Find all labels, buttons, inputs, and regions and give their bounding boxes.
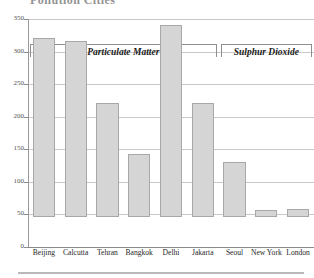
y-tick-label-250: 250 (0, 80, 24, 87)
plot-area: 050100150200250300350 Particulate Matter… (0, 0, 314, 260)
y-tick-label-200: 200 (0, 113, 24, 120)
x-tick-label-london: London (279, 249, 314, 257)
bar-bangkok[interactable] (128, 154, 150, 217)
y-tick-label-150: 150 (0, 145, 24, 152)
bar-seoul[interactable] (223, 162, 245, 217)
pollution-bar-chart: Pollution Cities 050100150200250300350 P… (0, 0, 314, 278)
bar-slot (65, 0, 87, 217)
bar-slot (160, 0, 182, 217)
bar-tehran[interactable] (96, 103, 118, 217)
bar-london[interactable] (287, 209, 309, 217)
bar-slot (255, 0, 277, 217)
bar-beijing[interactable] (33, 38, 55, 217)
y-tick-label-50: 50 (0, 210, 24, 217)
bar-slot (33, 0, 55, 217)
bar-series: BeijingCalcuttaTehranBangkokDelhiJakarta… (28, 0, 314, 248)
y-tick-label-300: 300 (0, 48, 24, 55)
bar-slot (287, 0, 309, 217)
bar-calcutta[interactable] (65, 41, 87, 217)
bar-jakarta[interactable] (192, 103, 214, 217)
y-tick-label-350: 350 (0, 15, 24, 22)
bar-delhi[interactable] (160, 25, 182, 217)
bar-slot (192, 0, 214, 217)
bar-slot (128, 0, 150, 217)
y-tick-label-0: 0 (0, 243, 24, 250)
bar-slot (223, 0, 245, 217)
bottom-divider (18, 272, 304, 274)
y-tick-label-100: 100 (0, 178, 24, 185)
bar-new-york[interactable] (255, 210, 277, 217)
bar-slot (96, 0, 118, 217)
